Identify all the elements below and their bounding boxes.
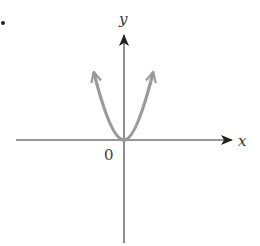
parabola-right-branch	[124, 73, 153, 140]
parabola-left-branch	[94, 73, 124, 140]
origin-label: 0	[104, 148, 114, 163]
parabola-graph-figure: y x 0	[0, 0, 260, 246]
coordinate-plane	[0, 0, 260, 246]
x-axis-label: x	[238, 134, 246, 149]
y-axis-label: y	[119, 12, 127, 27]
